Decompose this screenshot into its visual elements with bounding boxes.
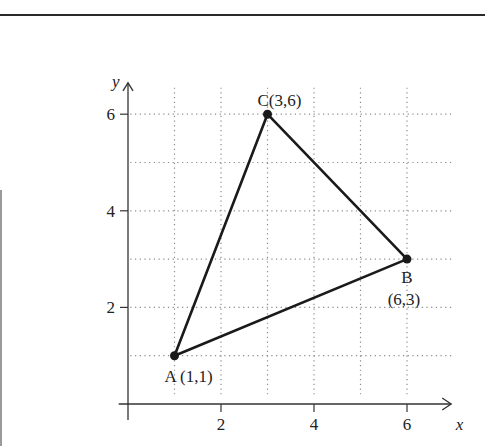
point-label-b-coords: (6,3): [388, 290, 421, 309]
ticks: 246246: [107, 105, 412, 434]
x-tick-label: 4: [310, 415, 319, 434]
y-axis-label: y: [110, 72, 120, 91]
point-a: [170, 351, 179, 360]
coordinate-plane: 246246 x y A (1,1) B (6,3) C(3,6): [0, 0, 485, 446]
y-tick-label: 2: [107, 298, 116, 317]
x-axis-label: x: [455, 415, 464, 434]
x-tick-label: 2: [217, 415, 226, 434]
point-c: [263, 110, 272, 119]
triangle-side-bc: [268, 114, 408, 259]
triangle-side-ca: [175, 114, 268, 356]
point-label-b-name: B: [401, 268, 412, 287]
point-label-a: A (1,1): [165, 367, 213, 386]
point-label-c: C(3,6): [258, 91, 302, 110]
y-tick-label: 4: [107, 202, 116, 221]
y-tick-label: 6: [107, 105, 116, 124]
grid: [130, 88, 453, 397]
triangle: [175, 114, 408, 356]
points: [170, 110, 412, 361]
x-tick-label: 6: [403, 415, 412, 434]
triangle-side-ab: [175, 259, 408, 356]
point-b: [403, 255, 412, 264]
